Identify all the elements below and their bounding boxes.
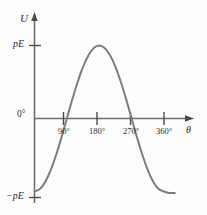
y-axis-label: U	[20, 13, 28, 24]
x-axis-arrow-icon	[185, 115, 194, 121]
x-axis-label: θ	[186, 125, 191, 135]
x-tick-label-90: 90°	[58, 127, 70, 136]
y-axis-arrow-icon	[31, 12, 37, 21]
x-tick-label-270: 270°	[123, 127, 139, 136]
y-tick-label-neg-pe: −pE	[6, 191, 24, 201]
x-tick-label-180: 180°	[89, 127, 105, 136]
plot-canvas	[0, 0, 207, 215]
x-tick-label-360: 360°	[156, 127, 172, 136]
potential-energy-figure: U θ pE −pE 0° 90° 180° 270° 360°	[0, 0, 207, 215]
y-tick-label-pe: pE	[13, 39, 24, 49]
origin-label: 0°	[17, 110, 26, 120]
